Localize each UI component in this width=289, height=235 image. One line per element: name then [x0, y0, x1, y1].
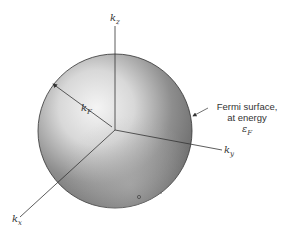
kx-axis-label: kx	[12, 214, 22, 227]
kf-radius-label: kF	[81, 103, 92, 116]
fermi-surface-annotation: Fermi surface, at energy εF	[206, 101, 288, 139]
small-dot-mark	[160, 192, 161, 193]
kz-axis-label: kz	[110, 13, 120, 26]
annotation-line-2: at energy	[206, 112, 288, 123]
annotation-line-3: εF	[206, 123, 288, 139]
ky-axis-label: ky	[224, 145, 234, 158]
annotation-line-1: Fermi surface,	[206, 101, 288, 112]
